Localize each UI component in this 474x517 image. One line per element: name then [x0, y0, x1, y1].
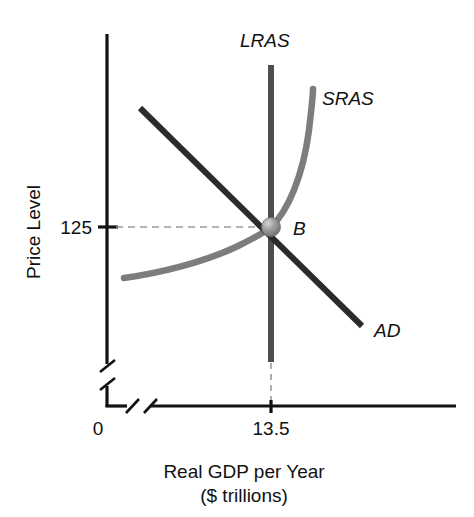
y-axis-tick-label-125: 125	[60, 217, 92, 238]
x-axis-break-slash-left	[126, 399, 139, 413]
guide-group	[116, 227, 271, 400]
equilibrium-point-label: B	[293, 218, 306, 239]
ad-curve[interactable]	[140, 108, 362, 326]
curves-group	[124, 65, 362, 362]
equilibrium-marker-group	[262, 218, 281, 237]
sras-label: SRAS	[322, 88, 374, 109]
lras-label: LRAS	[240, 30, 290, 51]
ad-label: AD	[373, 320, 401, 341]
x-axis-tick-label-13-5: 13.5	[253, 418, 290, 439]
figure-root: LRAS SRAS AD B 125 13.5 0 Price Level Re…	[0, 0, 474, 517]
x-axis-title-line-2: ($ trillions)	[200, 485, 288, 506]
equilibrium-point-b-marker[interactable]	[262, 218, 281, 237]
ad-as-equilibrium-chart: LRAS SRAS AD B 125 13.5 0 Price Level Re…	[0, 0, 474, 517]
y-axis-title: Price Level	[23, 185, 44, 279]
label-group: LRAS SRAS AD B 125 13.5 0 Price Level Re…	[23, 30, 401, 506]
x-axis-title-line-1: Real GDP per Year	[163, 461, 325, 482]
origin-label: 0	[93, 418, 104, 439]
